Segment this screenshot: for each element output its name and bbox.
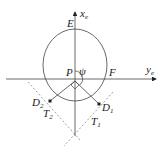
label-E: E: [66, 17, 74, 29]
tangent-line-T2: [28, 82, 80, 140]
label-T1: T1: [91, 115, 101, 129]
label-xe: xe: [79, 7, 88, 21]
point-D2: [49, 100, 52, 103]
label-P: P: [65, 66, 73, 78]
label-T2: T2: [43, 107, 53, 121]
label-F: F: [108, 66, 116, 78]
point-D1: [98, 103, 101, 106]
label-psi: ψ: [79, 65, 86, 77]
label-D1: D1: [101, 101, 113, 115]
ellipse-tangent-diagram: xe E P ψ F ye D2 D1 T2 T1: [0, 0, 168, 156]
diagram-svg: xe E P ψ F ye D2 D1 T2 T1: [0, 0, 168, 156]
label-ye: ye: [145, 63, 154, 77]
